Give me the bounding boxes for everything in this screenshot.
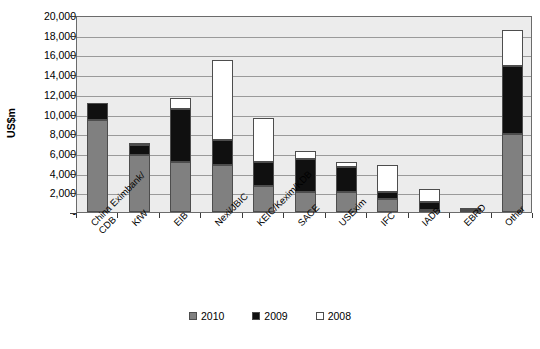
legend-item-2009[interactable]: 2009 xyxy=(252,310,287,322)
x-axis-labels: China Eximbank/ CDBKfWEIBNexi/JBICKEIC/K… xyxy=(0,0,540,349)
legend-label: 2010 xyxy=(201,310,224,322)
x-tick-label: Nexi/JBIC xyxy=(213,191,250,228)
x-tick-label: USExim xyxy=(337,197,369,229)
x-tick-label: KfW xyxy=(130,208,150,228)
x-tick-label: IADB xyxy=(420,205,443,228)
swatch-2008-icon xyxy=(316,312,324,320)
x-tick-label: SACE xyxy=(296,203,322,229)
x-tick-label: Other xyxy=(503,204,527,228)
x-tick-label: EIB xyxy=(172,210,190,228)
legend-label: 2009 xyxy=(264,310,287,322)
stacked-bar-chart: US$m -2,0004,0006,0008,00010,00012,00014… xyxy=(0,0,540,349)
x-tick-label: China Eximbank/ CDB xyxy=(89,170,155,236)
chart-legend: 201020092008 xyxy=(0,310,540,322)
x-tick-label: IFC xyxy=(379,210,397,228)
swatch-2010-icon xyxy=(189,312,197,320)
legend-item-2008[interactable]: 2008 xyxy=(316,310,351,322)
x-tick-label: EBRD xyxy=(462,202,488,228)
legend-item-2010[interactable]: 2010 xyxy=(189,310,224,322)
legend-label: 2008 xyxy=(328,310,351,322)
swatch-2009-icon xyxy=(252,312,260,320)
